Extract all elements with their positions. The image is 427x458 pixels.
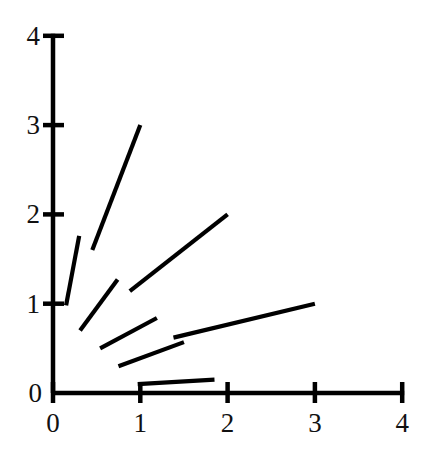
x-tick-label-0: 0 [46,410,60,437]
data-segment-7 [173,304,314,338]
x-tick-label-4: 4 [395,410,409,437]
data-segment-5 [100,318,157,348]
data-segment-8 [138,380,215,384]
data-segment-1 [66,236,79,306]
x-tick-label-1: 1 [134,410,148,437]
x-tick-label-2: 2 [221,410,235,437]
y-tick-label-4: 4 [27,22,41,49]
y-tick-label-3: 3 [27,112,41,139]
y-tick-label-2: 2 [27,201,41,228]
x-tick-label-3: 3 [308,410,322,437]
y-tick-label-0: 0 [29,380,43,407]
data-segments [66,125,315,384]
data-segment-2 [92,125,140,250]
data-segment-6 [118,342,183,366]
y-tick-label-1: 1 [27,290,41,317]
data-segment-3 [80,280,118,331]
plot-canvas [0,0,427,458]
data-segment-4 [130,214,228,291]
chart-figure: 0123401234 [0,0,427,458]
